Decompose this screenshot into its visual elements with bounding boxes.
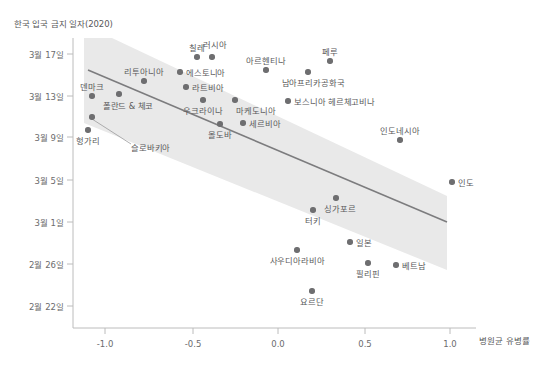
data-point: [183, 84, 188, 89]
data-point: [116, 91, 121, 96]
ytick-label: 3월 13일: [14, 90, 64, 102]
data-point-label: 폴란드 & 체코: [103, 99, 154, 111]
data-point-label: 싱가포르: [324, 202, 355, 214]
data-point-label: 페루: [322, 45, 338, 57]
data-point-label: 세르비아: [249, 117, 280, 129]
data-point-label: 헝가리: [76, 134, 100, 146]
data-point: [294, 247, 299, 252]
data-point: [141, 78, 146, 83]
data-point: [310, 207, 315, 212]
data-point-label: 인도네시아: [380, 124, 419, 136]
data-point-label: 마케도니아: [236, 104, 275, 116]
ytick-label: 3월 9일: [14, 131, 64, 143]
data-point: [327, 58, 332, 63]
data-point: [393, 262, 398, 267]
data-point-label: 러시아: [203, 38, 227, 50]
data-point-label: 에스토니아: [186, 66, 225, 78]
data-point: [194, 54, 199, 59]
data-point-label: 필리핀: [356, 267, 380, 279]
data-point: [177, 69, 182, 74]
data-point: [240, 120, 245, 125]
ytick-label: 3월 5일: [14, 174, 64, 186]
data-point: [85, 127, 90, 132]
data-point-label: 우크라이나: [183, 104, 222, 116]
data-point: [305, 69, 310, 74]
chart-screenshot: 한국 입국 금지 일자(2020): [0, 0, 538, 365]
data-point: [232, 97, 237, 102]
data-point-label: 사우디아라비아: [270, 254, 325, 266]
ytick-label: 3월 1일: [14, 216, 64, 228]
data-point: [217, 121, 222, 126]
ytick-label: 2월 22일: [14, 300, 64, 312]
xtick-label: 0.0: [271, 339, 285, 349]
data-point: [397, 137, 402, 142]
data-point-label: 리투아니아: [124, 65, 163, 77]
data-point-label: 아르헨티나: [246, 54, 285, 66]
data-point-label: 라트비아: [192, 81, 223, 93]
data-point: [309, 288, 314, 293]
data-point: [285, 98, 290, 103]
data-point-label: 슬로바키아: [131, 141, 170, 153]
ytick-label: 2월 26일: [14, 258, 64, 270]
data-point-label: 덴마크: [80, 80, 104, 92]
x-axis-ticks: [105, 328, 450, 334]
data-point-label: 몰도바: [208, 128, 232, 140]
data-point: [209, 54, 214, 59]
data-point: [365, 260, 370, 265]
xtick-label: -0.5: [185, 339, 202, 349]
data-point: [347, 239, 352, 244]
x-axis-title: 병원균 유병률: [479, 334, 530, 346]
data-point-label: 일본: [356, 236, 372, 248]
data-point: [89, 93, 94, 98]
ytick-label: 3월 17일: [14, 48, 64, 60]
data-point: [200, 97, 205, 102]
data-point-label: 베트남: [402, 259, 426, 271]
xtick-label: 1.0: [443, 339, 457, 349]
data-point: [263, 67, 268, 72]
data-point-label: 보스니아 헤르체고비나: [294, 95, 375, 107]
data-point: [333, 195, 338, 200]
xtick-label: 0.5: [358, 339, 372, 349]
data-point: [89, 114, 94, 119]
xtick-label: -1.0: [97, 339, 114, 349]
data-point: [449, 179, 454, 184]
y-axis-ticks: [67, 54, 73, 306]
data-point-label: 요르단: [300, 295, 324, 307]
data-point-label: 남아프리카공화국: [282, 76, 345, 88]
data-point-label: 인도: [458, 176, 474, 188]
data-point-label: 터키: [305, 214, 321, 226]
